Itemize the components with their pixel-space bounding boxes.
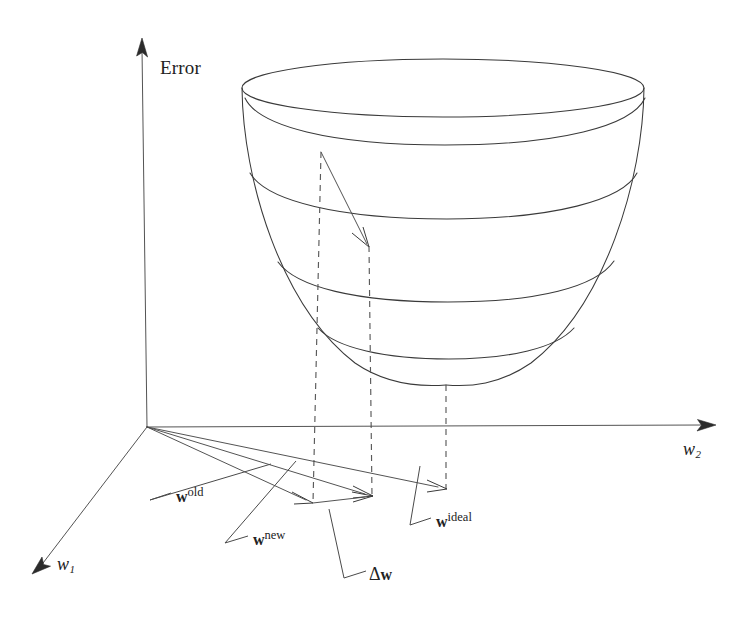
label-w-ideal: wideal	[436, 513, 472, 530]
label-w-new-superscript: new	[265, 528, 286, 542]
w1-axis-label-subscript: 1	[70, 563, 76, 575]
label-w-ideal-superscript: ideal	[448, 510, 472, 524]
bowl-contour-1	[250, 173, 637, 219]
w1-axis-label-base: w	[57, 554, 69, 574]
label-delta-w-symbol: Δ	[369, 564, 381, 584]
leader-delta-w	[329, 509, 366, 578]
label-w-old-superscript: old	[188, 485, 204, 499]
label-w-old-base: w	[176, 488, 188, 505]
label-w-ideal-base: w	[436, 513, 448, 530]
w2-axis-label: w2	[683, 440, 701, 458]
dashed-projection-lines	[313, 152, 446, 503]
figure-canvas: Error w1 w2 wold wnew Δw wideal	[0, 0, 747, 618]
gradient-descent-arrow	[321, 152, 369, 247]
label-leader-lines	[150, 461, 431, 578]
bowl-right-profile	[446, 88, 644, 386]
w2-axis-label-base: w	[683, 439, 695, 459]
label-w-new: wnew	[253, 531, 285, 548]
w1-axis-label: w1	[57, 555, 75, 573]
w1-axis	[32, 427, 147, 574]
w2-axis-label-subscript: 2	[696, 448, 702, 460]
label-w-new-base: w	[253, 531, 265, 548]
bowl-left-profile	[242, 88, 446, 386]
bowl-inner-lip	[245, 98, 645, 145]
error-axis	[137, 38, 148, 427]
bowl-contour-2	[278, 261, 614, 302]
vector-w-old	[147, 427, 313, 504]
bowl-rim-ellipse	[242, 59, 644, 117]
error-surface-diagram	[0, 0, 747, 618]
leader-w-ideal	[410, 466, 431, 525]
axis-group	[32, 38, 716, 574]
leader-w-old	[150, 464, 271, 500]
error-axis-label: Error	[160, 58, 201, 77]
bowl-contour-3	[318, 328, 574, 359]
label-delta-w: Δw	[369, 565, 392, 583]
label-w-old: wold	[176, 488, 204, 505]
error-paraboloid-bowl	[242, 59, 645, 386]
label-delta-w-base: w	[381, 566, 393, 583]
vector-w-ideal	[147, 427, 447, 492]
w2-axis	[147, 420, 716, 432]
